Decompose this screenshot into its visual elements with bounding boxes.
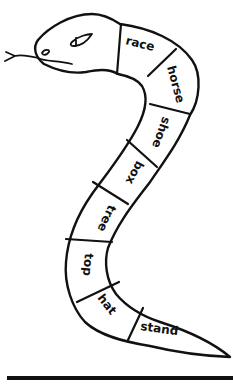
segment-word-top: top [80,253,96,277]
tongue-icon [5,52,38,61]
snake-illustration: race horse shoe box tree top hat stand [0,0,233,384]
snake-body [35,14,230,357]
